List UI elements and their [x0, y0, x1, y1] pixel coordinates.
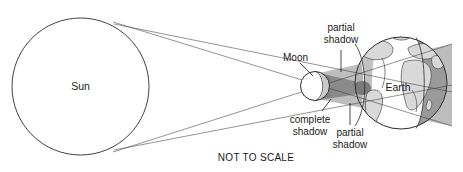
label-partial-shadow-bottom-line2: shadow [333, 139, 368, 150]
earth-body [340, 31, 452, 129]
solar-eclipse-diagram: Sun Moon partial shadow complete shadow … [0, 0, 463, 172]
label-earth: Earth [385, 81, 410, 93]
label-complete-shadow-line1: complete [290, 114, 331, 125]
label-not-to-scale: NOT TO SCALE [218, 152, 294, 163]
label-complete-shadow-line2: shadow [293, 126, 328, 137]
label-partial-shadow-top-line2: shadow [324, 34, 359, 45]
landmass-greenland [392, 31, 411, 40]
label-moon: Moon [283, 52, 308, 63]
eclipse-illustration: Sun Moon partial shadow complete shadow … [0, 0, 463, 172]
label-partial-shadow-top-line1: partial [327, 22, 354, 33]
label-partial-shadow-bottom-line1: partial [336, 127, 363, 138]
label-sun: Sun [71, 80, 90, 92]
